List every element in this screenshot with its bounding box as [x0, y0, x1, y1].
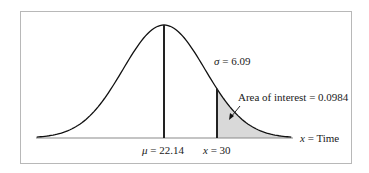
- x-value-label: x = 30: [202, 144, 231, 156]
- sigma-label: σ = 6.09: [214, 55, 251, 67]
- area-label: Area of interest = 0.0984: [238, 91, 349, 103]
- mean-label: μ = 22.14: [141, 144, 184, 156]
- x-axis-label: x = Time: [299, 132, 339, 144]
- normal-distribution-figure: σ = 6.09 Area of interest = 0.0984 μ = 2…: [0, 0, 369, 173]
